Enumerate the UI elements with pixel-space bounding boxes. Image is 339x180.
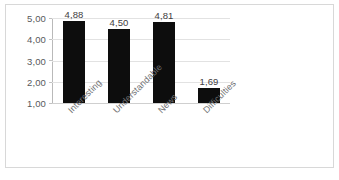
category-axis-labels: Interesting Understandable News Difficul… (52, 0, 230, 80)
ytick-label-4: 4,00 (27, 34, 46, 45)
chart-screenshot: 1,00 2,00 3,00 4,00 5,00 4,88 4,50 4,81 … (0, 0, 339, 180)
ytick-label-5: 5,00 (27, 13, 46, 24)
ytick-label-1: 1,00 (27, 98, 46, 109)
value-axis-labels: 1,00 2,00 3,00 4,00 5,00 (0, 18, 46, 103)
ytick-label-2: 2,00 (27, 76, 46, 87)
ytick-label-3: 3,00 (27, 55, 46, 66)
